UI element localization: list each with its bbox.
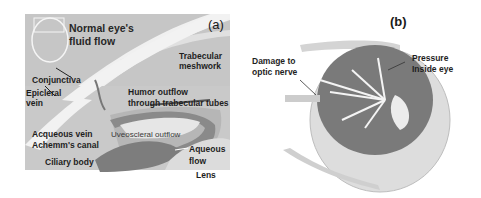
label-schlemm-canal: Achemm's canal xyxy=(32,141,99,150)
label-damage-line2: optic nerve xyxy=(252,68,297,77)
panel-a-tag: (a) xyxy=(208,17,224,32)
label-aqueous-vein: Acqueous vein xyxy=(32,130,92,139)
label-episcleral-line1: Epicleral xyxy=(26,89,61,98)
panel-a-title-line2: fluid flow xyxy=(69,36,115,47)
label-conjunctiva: Conjunctiva xyxy=(32,76,81,85)
label-trabecular-line1: Trabecular xyxy=(179,52,222,61)
label-humor-line2: through trabecular tubes xyxy=(128,99,229,108)
label-pressure-line1: Pressure xyxy=(412,54,448,63)
label-damage-line1: Damage to xyxy=(252,57,295,66)
label-aqueous-flow-line1: Aqueous xyxy=(189,145,225,154)
label-aqueous-flow-line2: flow xyxy=(189,157,206,166)
label-ciliary-body: Ciliary body xyxy=(45,158,94,167)
label-lens: Lens xyxy=(196,171,216,180)
label-episcleral-line2: vein xyxy=(26,99,43,108)
label-pressure-line2: Inside eye xyxy=(412,65,453,74)
label-trabecular-line2: meshwork xyxy=(179,62,221,71)
label-humor-line1: Humor outflow xyxy=(128,88,188,97)
panel-b-tag: (b) xyxy=(390,14,407,29)
label-uveoscleral: Uveoscleral outflow xyxy=(111,130,180,139)
panel-a-title-line1: Normal eye's xyxy=(69,23,134,34)
